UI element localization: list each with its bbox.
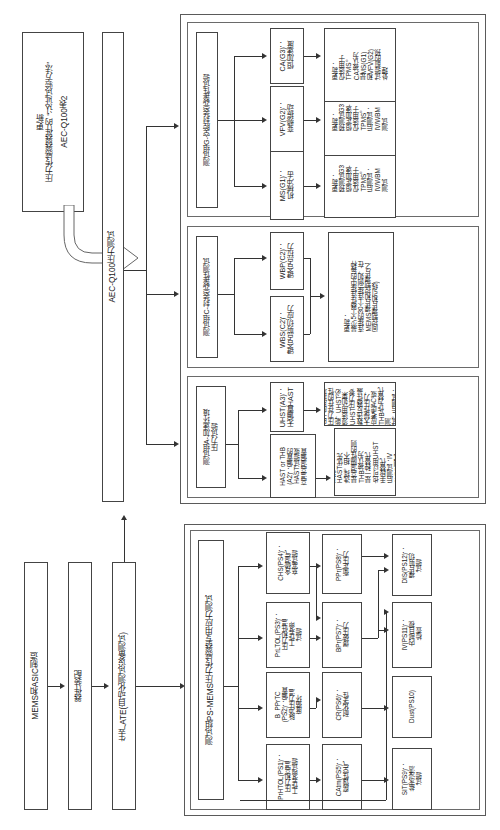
- ps-link-ps5-ps9: [362, 780, 384, 781]
- group-ps-bus: [238, 566, 239, 780]
- update-uhst-a3-box: 更新： 由于应用环境 压力存在的性 能，UHST必 须适用(如果 UHST压力参…: [324, 382, 396, 426]
- ps-link-ps8-h: [362, 556, 384, 557]
- ps-c1-branch-1: [238, 780, 258, 781]
- ps-test-dust-ps10-box[interactable]: Dust(PS10): [392, 676, 432, 738]
- ps-test-chs-ps4-label: CHS(PS4)： 含硫湿气 充塞试验: [277, 545, 299, 581]
- group-a-title: 测试组A-加速环境 压力试验: [203, 409, 219, 465]
- ps-link-bottom-arrow: [384, 609, 389, 615]
- test-vfv-g2-box[interactable]: VFV(G2)： 变频振动: [270, 86, 304, 152]
- source-title-box: AEC-Q100表2 压力传感器器件的 “认证试验方法” 更新: [22, 32, 84, 212]
- test-ms-g1-label: MS(G1)： 机械冲击: [279, 169, 295, 201]
- ps-link-ps7-v: [378, 570, 379, 638]
- stress-test-spine-label: AEC-Q100压力测试: [108, 231, 117, 303]
- group-c-arrow-1: [262, 331, 267, 337]
- group-g-title-box: 测试组G-空腔封装完整性试验: [196, 32, 218, 208]
- group-c-merge-from-wbs: [304, 334, 310, 335]
- hast-a2-to-update-line: [316, 478, 326, 479]
- ps-test-dis-ps12-box[interactable]: DIS(PS12)： 裸片剪切 试验: [392, 534, 432, 596]
- update-vfv-g2-text: 更新： 预测试G3 恒定加速- 仅适用于 TPMS。 后测试： IV/WBM 测…: [331, 104, 388, 131]
- ps-link-chs-v: [316, 566, 317, 618]
- group-c-stem: [218, 294, 234, 295]
- assembly-label: 器件装配: [75, 670, 84, 702]
- manufacture-to-assembly-line: [48, 686, 60, 687]
- ps-link-bottom-v: [386, 612, 387, 800]
- ms-g1-update-arrow: [316, 183, 321, 189]
- stress-bus-from-spine: [124, 270, 146, 271]
- ps-test-chs-ps4-box[interactable]: CHS(PS4)： 含硫湿气 充塞试验: [266, 532, 310, 594]
- group-a-branch-2: [238, 410, 262, 411]
- ps-link-ps3-ps7-arrow: [316, 635, 321, 641]
- test-wbs-c2-box[interactable]: WBS(C2)： 键合点剪切应力: [270, 296, 304, 362]
- uhst-a3-update-arrow: [316, 407, 321, 413]
- group-g-branch-2: [234, 120, 262, 121]
- group-g-branch-1: [234, 186, 262, 187]
- bus-arrow-g: [174, 123, 179, 129]
- assembly-to-ate-arrow: [104, 683, 109, 689]
- group-c-merge-from-wbp: [304, 258, 310, 259]
- group-ps-title-box: 测试组PS-MEMS压力传感器专用应力测试: [198, 540, 224, 800]
- ps-test-iv-ps11-box[interactable]: IV(PS11)： 内部目视 检查: [392, 602, 432, 668]
- ps-c1-arrow-4: [258, 563, 263, 569]
- assembly-to-ate-line: [92, 686, 104, 687]
- group-c-arrow-2: [262, 255, 267, 261]
- test-wbs-c2-label: WBS(C2)： 键合点剪切应力: [279, 305, 295, 354]
- group-c-bus: [234, 258, 235, 334]
- manufacture-box[interactable]: MEMS和ASIC制造: [24, 562, 48, 810]
- test-wbp-c2-box[interactable]: WBP(C2)： 键合点拉力: [270, 232, 304, 290]
- ps-link-chs-ps7-arrow: [316, 615, 321, 621]
- ca-g3-update-arrow: [316, 53, 321, 59]
- group-ps-title: 测试组PS-MEMS压力传感器专用应力测试: [206, 595, 215, 745]
- ps-link-ps2-h: [310, 708, 316, 709]
- group-a-arrow-1: [262, 475, 267, 481]
- bus-branch-c: [146, 294, 174, 295]
- test-ms-g1-box[interactable]: MS(G1)： 机械冲击: [270, 150, 304, 220]
- test-ca-g3-box[interactable]: CA(G3)： 恒加速度: [270, 28, 304, 84]
- ate-to-spine-line: [124, 520, 125, 562]
- group-a-arrow-2: [262, 407, 267, 413]
- test-hast-thb-a2-box[interactable]: HAST or THB (A2)：偏置的 HAST试验或 高温高湿偏置: [270, 434, 316, 498]
- update-group-c-text: 更新： 最少5个器件连接中的每种 连接的30个连接(例如，在 MEMS裸片和控制…: [343, 262, 379, 332]
- curved-block-arrow: [58, 205, 143, 280]
- stress-test-spine: AEC-Q100压力测试: [102, 32, 124, 502]
- ps-test-dust-ps10-label: Dust(PS10): [408, 690, 415, 723]
- ps-test-ppr-ps8-box[interactable]: PPr(PS8)： 衡定压力: [322, 534, 362, 594]
- ps-c1-arrow-3: [258, 635, 263, 641]
- group-a-title-box: 测试组A-加速环境 压力试验: [196, 386, 226, 488]
- ps-test-prltol-ps3-box[interactable]: PrLTOL(PS3)： 压力和低温 工作寿命 试验: [266, 602, 310, 668]
- group-g-arrow-3: [262, 53, 267, 59]
- ps-test-cr-ps6-box[interactable]: CR(PS6)： 耐化学性: [322, 672, 362, 738]
- ps-link-chs-ps8-arrow: [316, 563, 321, 569]
- ps-c1-arrow-2: [258, 705, 263, 711]
- group-c-update-arrow: [320, 293, 325, 299]
- test-uhst-a3-box[interactable]: UHST(A3)： 无偏置HAST: [270, 382, 304, 432]
- ps-test-bpprtc-ps2-box[interactable]: B_PPrTC (PS2)：偏置 脉冲压力温 度循环: [266, 672, 310, 738]
- ps-test-ppr-ps8-label: PPr(PS8)： 衡定压力: [335, 548, 349, 581]
- group-g-title: 测试组G-空腔封装完整性试验: [203, 74, 211, 166]
- ps-test-bpprtc-ps2-label: B_PPrTC (PS2)：偏置 脉冲压力温 度循环: [274, 688, 303, 722]
- update-hast-a2-text: 更新： HAST优先 选择。相不 是高湿隔性的则 THB被认为 是一种替代 也可…: [334, 441, 396, 483]
- ps-link-ps2-ps6-arrow: [316, 697, 321, 703]
- test-vfv-g2-label: VFV(G2)： 变频振动: [279, 101, 295, 136]
- vfv-g2-to-update-line: [304, 120, 316, 121]
- assembly-box[interactable]: 器件装配: [68, 562, 92, 810]
- update-hast-a2-box: 更新： HAST优先 选择。相不 是高湿隔性的则 THB被认为 是一种替代 也可…: [334, 428, 396, 496]
- hast-a2-update-arrow: [326, 475, 331, 481]
- manufacture-to-assembly-arrow: [60, 683, 65, 689]
- ate-box[interactable]: 生产ATE(自动化测试设备测试): [112, 562, 136, 810]
- ps-link-ps7-h: [362, 638, 378, 639]
- test-uhst-a3-label: UHST(A3)： 无偏置HAST: [279, 387, 295, 427]
- diagram-canvas: AEC-Q100表2 压力传感器器件的 “认证试验方法” 更新 AEC-Q100…: [0, 0, 500, 830]
- ps-test-bpr-ps7-box[interactable]: BPr(PS7)： 爆破压力: [322, 602, 362, 668]
- test-wbp-c2-label: WBP(C2)： 键合点拉力: [279, 242, 295, 279]
- update-ca-g3-text: 更新： 仅适用于 TPMS。 CA被认为 是MS(G1) 和VFV(G2) 试验…: [331, 49, 388, 80]
- source-title-line2: 压力传感器器件的 “认证试验方法”: [46, 62, 55, 182]
- group-g-bus: [234, 56, 235, 186]
- update-ms-g1-text: 更新： 预测试G3 恒定加速- 仅适用于 TPMS。 后测试： IV/WBM 测…: [331, 165, 388, 192]
- test-ca-g3-label: CA(G3)： 恒加速度: [279, 40, 295, 71]
- ps-test-sit-ps9-box[interactable]: SIT(PS9)： 盐水浸渍 试验: [392, 748, 432, 810]
- ps-test-sit-ps9-label: SIT(PS9)： 盐水浸渍 试验: [401, 763, 423, 795]
- ate-to-spine-arrow: [121, 515, 127, 520]
- source-title-line3: 更新: [37, 62, 46, 182]
- uhst-a3-to-update-line: [304, 410, 316, 411]
- ps-test-prhtol-ps1-label: PrHTOL(PS1)： 压力和高温 工作寿命试验: [277, 754, 299, 800]
